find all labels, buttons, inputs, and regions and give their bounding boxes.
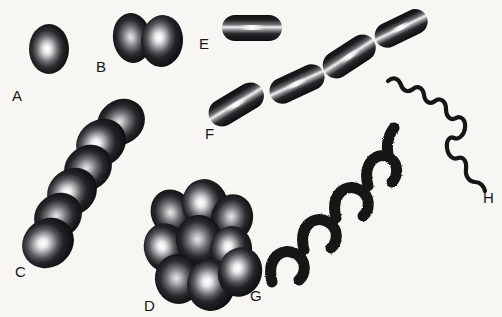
bacteria-morphology-figure: A B C D E F G H Bacterial cell shapes an…	[0, 0, 502, 317]
specimen-label-e: E	[199, 36, 209, 51]
specimen-label-b: B	[96, 59, 106, 74]
specimen-label-f: F	[205, 126, 214, 141]
specimen-e-bacillus	[222, 15, 282, 41]
figure-illustration-canvas	[0, 0, 502, 317]
specimen-label-g: G	[250, 288, 262, 303]
specimen-a-coccus	[29, 24, 69, 74]
specimen-label-c: C	[15, 264, 26, 279]
specimen-label-d: D	[144, 298, 155, 313]
specimen-label-h: H	[483, 190, 494, 205]
specimen-label-a: A	[12, 88, 22, 103]
